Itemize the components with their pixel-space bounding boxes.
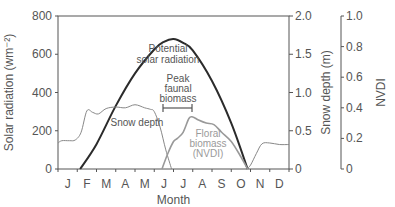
floral-label: (NVDI) xyxy=(193,148,224,159)
y-tick-label: 200 xyxy=(32,124,52,138)
y3-tick-label: 1.0 xyxy=(346,9,363,23)
solar-label: solar radiation xyxy=(137,54,200,65)
x-tick-label: J xyxy=(65,177,71,191)
y-tick-label: 0 xyxy=(45,162,52,176)
y3-axis-title: NVDI xyxy=(374,78,388,107)
solar-label: Potential xyxy=(149,43,188,54)
y2-axis-title: Snow depth (m) xyxy=(319,50,333,135)
snow-depth-label: Snow depth xyxy=(111,117,164,128)
y-tick-label: 400 xyxy=(32,86,52,100)
y3-tick-label: 0.8 xyxy=(346,40,363,54)
x-tick-label: S xyxy=(218,177,226,191)
annotations: Potentialsolar radiationSnow depthPeakfa… xyxy=(111,43,227,159)
peak-faunal-label: biomass xyxy=(159,93,196,104)
y-tick-label: 800 xyxy=(32,9,52,23)
x-tick-label: A xyxy=(198,177,206,191)
y2-tick-label: 1.5 xyxy=(295,47,312,61)
x-tick-label: N xyxy=(256,177,265,191)
x-tick-label: M xyxy=(140,177,150,191)
x-tick-label: D xyxy=(275,177,284,191)
chart: 020040060080000.51.01.52.000.20.40.60.81… xyxy=(0,0,395,207)
x-tick-label: F xyxy=(83,177,90,191)
y3-tick-label: 0.4 xyxy=(346,101,363,115)
snow-depth-line xyxy=(247,143,289,169)
snow-depth-line xyxy=(58,105,172,169)
y3-tick-label: 0 xyxy=(346,162,353,176)
y-tick-label: 600 xyxy=(32,47,52,61)
y2-tick-label: 0.5 xyxy=(295,124,312,138)
y2-tick-label: 0 xyxy=(295,162,302,176)
y3-tick-label: 0.6 xyxy=(346,70,363,84)
x-tick-label: J xyxy=(161,177,167,191)
axes: 020040060080000.51.01.52.000.20.40.60.81… xyxy=(2,9,388,207)
y2-tick-label: 1.0 xyxy=(295,86,312,100)
x-tick-label: J xyxy=(180,177,186,191)
y2-tick-label: 2.0 xyxy=(295,9,312,23)
y-axis-title: Solar radiation (wm⁻²) xyxy=(2,34,16,151)
x-tick-label: M xyxy=(101,177,111,191)
x-tick-label: A xyxy=(121,177,129,191)
y3-tick-label: 0.2 xyxy=(346,131,363,145)
x-tick-label: O xyxy=(236,177,245,191)
x-axis-title: Month xyxy=(157,193,190,207)
